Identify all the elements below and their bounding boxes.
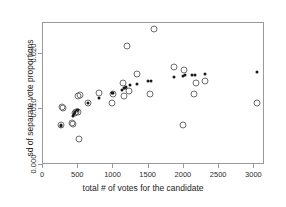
data-point <box>192 80 199 87</box>
x-axis-label: total # of votes for the candidate <box>0 183 286 193</box>
data-point <box>202 77 209 84</box>
data-point <box>173 76 176 79</box>
x-tick-label: 1000 <box>104 170 121 179</box>
data-point <box>193 73 196 76</box>
scatter-plot-figure: 050010001500200025003000 0.0000.0100.020… <box>0 0 286 207</box>
data-point <box>112 92 115 95</box>
data-points-layer <box>43 23 263 163</box>
data-point <box>150 26 157 33</box>
x-tick-mark <box>253 164 254 168</box>
data-point <box>97 96 100 99</box>
x-tick-mark <box>218 164 219 168</box>
data-point <box>77 108 80 111</box>
y-axis-label: sd of separate vote proportions <box>25 23 35 173</box>
data-point <box>60 104 67 111</box>
y-tick-mark <box>38 108 42 109</box>
data-point <box>147 91 154 98</box>
x-tick-mark <box>112 164 113 168</box>
x-tick-mark <box>148 164 149 168</box>
data-point <box>76 92 83 99</box>
data-point <box>125 88 132 95</box>
data-point <box>60 124 63 127</box>
data-point <box>204 72 207 75</box>
x-tick-label: 0 <box>40 170 44 179</box>
data-point <box>87 101 90 104</box>
data-point <box>179 121 186 128</box>
x-tick-mark <box>183 164 184 168</box>
data-point <box>75 135 82 142</box>
data-point <box>95 89 102 96</box>
x-tick-label: 3000 <box>245 170 262 179</box>
data-point <box>136 82 139 85</box>
data-point <box>134 70 141 77</box>
plot-area <box>42 22 264 164</box>
y-tick-mark <box>38 53 42 54</box>
x-tick-mark <box>42 164 43 168</box>
x-tick-label: 1500 <box>139 170 156 179</box>
data-point <box>149 79 152 82</box>
data-point <box>129 84 132 87</box>
x-tick-label: 500 <box>71 170 84 179</box>
data-point <box>171 63 178 70</box>
x-tick-label: 2500 <box>210 170 227 179</box>
data-point <box>191 90 198 97</box>
data-point <box>255 70 258 73</box>
data-point <box>253 99 260 106</box>
data-point <box>125 86 128 89</box>
data-point <box>184 74 187 77</box>
x-tick-label: 2000 <box>175 170 192 179</box>
x-tick-mark <box>77 164 78 168</box>
y-tick-mark <box>38 164 42 165</box>
data-point <box>108 100 115 107</box>
data-point <box>124 43 131 50</box>
data-point <box>180 66 187 73</box>
data-point <box>70 120 77 127</box>
